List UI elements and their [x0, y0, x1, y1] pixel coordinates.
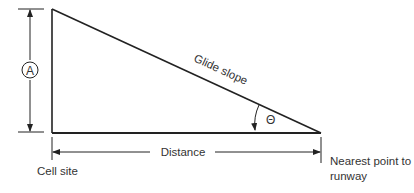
height-dimension: A — [18, 9, 44, 132]
angle-arc-icon — [255, 105, 259, 130]
distance-label: Distance — [161, 146, 206, 158]
glide-slope-line — [52, 9, 321, 133]
angle-indicator: Θ — [255, 105, 276, 130]
nearest-point-label-line2: runway — [330, 170, 367, 182]
cell-site-label: Cell site — [37, 165, 78, 177]
glide-slope-diagram: A Glide slope Θ Distance Cell site Neare… — [0, 0, 414, 193]
height-marker-label: A — [26, 64, 34, 78]
distance-dimension: Distance — [52, 137, 321, 163]
angle-label: Θ — [266, 113, 275, 127]
nearest-point-label-line1: Nearest point to — [330, 155, 411, 167]
glide-slope-label: Glide slope — [192, 52, 249, 87]
triangle — [52, 9, 321, 133]
